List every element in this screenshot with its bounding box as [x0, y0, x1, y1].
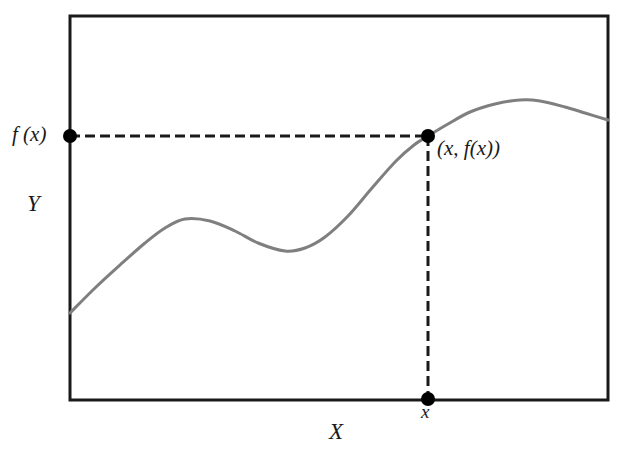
point-coordinate-label: (x, f(x)) [437, 136, 500, 161]
x-axis-label: X [329, 419, 343, 445]
function-point-marker [421, 129, 435, 143]
y-axis-label: Y [27, 191, 40, 217]
y-intercept-marker [63, 129, 77, 143]
x-value-label: x [421, 401, 429, 423]
function-graph-figure: f (x) Y (x, f(x)) x X [0, 0, 626, 457]
plot-canvas [0, 0, 626, 457]
plot-frame [70, 16, 608, 400]
f-of-x-axis-value-label: f (x) [12, 122, 46, 147]
